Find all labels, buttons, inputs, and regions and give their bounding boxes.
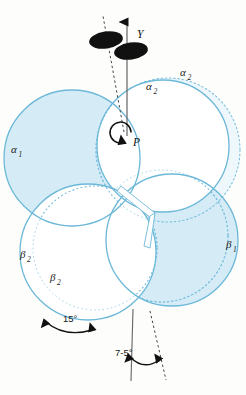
rotor-geometry-diagram: Y P α 1 α 2 α 2 β 1 β 2 β 2 15° 7-5° [0, 0, 246, 395]
label-alpha-2-outer-subscript: 2 [188, 73, 192, 82]
label-alpha-2-inner-subscript: 2 [154, 87, 158, 96]
label-angle-15: 15° [63, 313, 78, 324]
label-beta-2-inner-subscript: 2 [57, 278, 61, 287]
label-alpha-1-subscript: 1 [19, 150, 23, 159]
label-alpha-1-greek: α [11, 143, 17, 155]
label-rotation-p: P [132, 136, 140, 148]
figure-root: Y P α 1 α 2 α 2 β 1 β 2 β 2 15° 7-5° [0, 0, 246, 395]
label-alpha-2-inner-greek: α [146, 80, 152, 92]
label-alpha-2-outer-greek: α [180, 66, 186, 78]
label-beta-2-outer-subscript: 2 [27, 255, 31, 264]
label-beta-1-greek: β [225, 238, 232, 250]
label-beta-2-inner-greek: β [49, 271, 56, 283]
label-angle-7-5: 7-5° [115, 347, 133, 358]
label-beta-2-outer-greek: β [19, 248, 26, 260]
label-beta-1-subscript: 1 [233, 245, 237, 254]
